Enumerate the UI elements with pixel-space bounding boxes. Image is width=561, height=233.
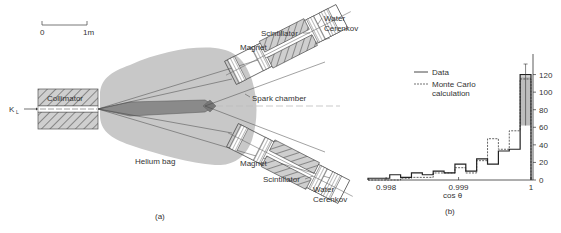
scale-end-label: 1m	[83, 28, 94, 37]
beam-subscript: L	[16, 109, 19, 115]
y-tick-label-1: 20	[539, 158, 548, 167]
histogram: 0.9980.9991020406080100120	[368, 54, 553, 192]
y-tick-label-3: 60	[539, 123, 548, 132]
water-bottom-label: Water	[313, 185, 334, 194]
scintillator-top-label: Scintillator	[261, 29, 298, 38]
panel-label-b: (b)	[445, 207, 455, 216]
y-tick-label-5: 100	[539, 88, 553, 97]
water-top-label: Water	[324, 14, 345, 23]
collimator-label: Collimator	[47, 94, 83, 103]
cerenkov-top-label: Cerenkov	[324, 24, 358, 33]
panel-label-a: (a)	[155, 212, 165, 221]
collimator: Collimator	[38, 89, 98, 129]
legend-data-label: Data	[432, 68, 449, 77]
x-tick-label-2: 1	[529, 183, 534, 192]
x-axis-label: cos θ	[443, 191, 463, 200]
x-tick-label-0: 0.998	[376, 183, 397, 192]
scintillator-bottom-label: Scintillator	[263, 175, 300, 184]
spark-chamber-label: Spark chamber	[252, 94, 307, 103]
legend-mc-label: Monte Carlo	[432, 80, 476, 89]
y-tick-label-6: 120	[539, 71, 553, 80]
y-tick-label-2: 40	[539, 141, 548, 150]
beam-k-label: K	[9, 105, 15, 114]
scale-start-label: 0	[40, 28, 45, 37]
scale-bar: 0 1m	[40, 21, 94, 37]
y-tick-label-4: 80	[539, 106, 548, 115]
cerenkov-bottom-label: Cerenkov	[313, 195, 347, 204]
helium-bag-label: Helium bag	[135, 157, 175, 166]
legend-mc-label-2: calculation	[432, 89, 470, 98]
figure: 0 1m Collimator K L	[0, 0, 561, 233]
magnet-bottom-label: Magnet	[240, 159, 267, 168]
beam-label: K L	[9, 105, 38, 115]
y-tick-label-0: 0	[539, 176, 544, 185]
legend: Data Monte Carlo calculation	[414, 68, 476, 98]
magnet-top-label: Magnet	[240, 43, 267, 52]
